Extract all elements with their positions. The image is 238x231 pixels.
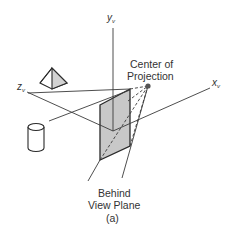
cop-label-line1: Center of <box>130 58 173 70</box>
plane-label-line2: View Plane <box>88 199 141 211</box>
pyramid-icon <box>40 68 67 89</box>
plane-pointer-line-left <box>88 160 100 181</box>
cylinder-icon <box>28 124 44 152</box>
y-axis-label: yv <box>106 12 116 24</box>
pyramid-projector-line <box>28 89 130 93</box>
figure-caption: (a) <box>106 212 119 224</box>
view-plane-diagram: yv zv xv Center of Projection Behi <box>0 0 238 231</box>
cop-label-line2: Projection <box>127 70 174 82</box>
center-of-projection-dot <box>145 83 150 88</box>
x-axis-label: xv <box>211 77 221 89</box>
z-axis-label: zv <box>16 81 26 93</box>
plane-label-line1: Behind <box>98 187 131 199</box>
